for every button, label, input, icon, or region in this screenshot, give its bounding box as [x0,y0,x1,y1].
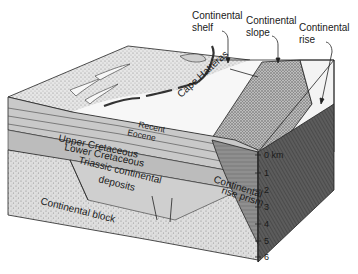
callout-slope-line1: Continental [246,15,297,26]
depth-tick-0: 0 km [264,150,284,160]
continental-margin-diagram: Continental shelf Continental slope Cont… [0,0,358,274]
callout-shelf-line2: shelf [192,22,213,33]
callout-slope-line2: slope [246,27,270,38]
depth-tick-4: 4 [264,219,269,229]
depth-tick-3: 3 [264,202,269,212]
callout-rise-line1: Continental [299,22,350,33]
depth-tick-6: 6 [264,252,269,262]
depth-tick-2: 2 [264,185,269,195]
callout-rise-line2: rise [299,34,316,45]
depth-tick-1: 1 [264,168,269,178]
depth-tick-5: 5 [264,236,269,246]
callout-shelf-line1: Continental [192,10,243,21]
